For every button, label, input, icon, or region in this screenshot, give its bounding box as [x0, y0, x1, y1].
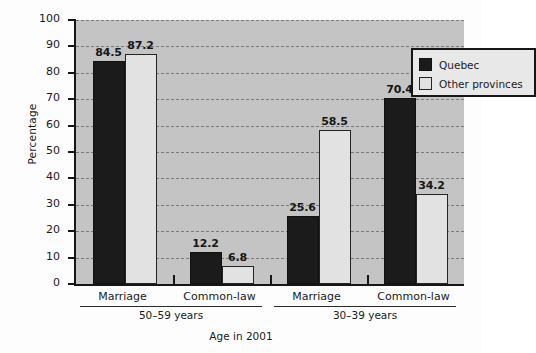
legend-swatch-quebec: [419, 58, 432, 71]
x-axis-category-label: Marriage: [74, 290, 171, 303]
bar-other-provinces: [319, 130, 351, 284]
y-axis-tick-label: 40: [0, 170, 60, 183]
y-axis-tick-label: 90: [0, 38, 60, 51]
x-axis-separator-tick: [367, 275, 369, 284]
y-axis-tick: [68, 230, 76, 232]
gridline: [76, 20, 464, 21]
bar-other-provinces: [416, 194, 448, 284]
bar-value-label: 58.5: [311, 115, 359, 128]
chart-legend: Quebec Other provinces: [411, 48, 536, 97]
bar-other-provinces: [125, 54, 157, 284]
y-axis-tick: [68, 72, 76, 74]
legend-label-quebec: Quebec: [439, 59, 479, 71]
x-axis-separator-tick: [270, 275, 272, 284]
x-axis-group-rule: [80, 306, 262, 307]
bar-quebec: [93, 61, 125, 284]
bar-quebec: [287, 216, 319, 284]
bar-other-provinces: [222, 266, 254, 284]
y-axis-tick-label: 80: [0, 65, 60, 78]
x-axis-group-label: 30–39 years: [274, 309, 456, 321]
y-axis-tick: [68, 204, 76, 206]
y-axis-tick-label: 20: [0, 223, 60, 236]
bar-value-label: 34.2: [408, 179, 456, 192]
y-axis-tick: [68, 19, 76, 21]
y-axis-tick: [68, 151, 76, 153]
y-axis-tick-label: 50: [0, 144, 60, 157]
y-axis-tick-label: 30: [0, 197, 60, 210]
y-axis-title: Percentage: [26, 54, 38, 214]
y-axis-tick-label: 70: [0, 91, 60, 104]
x-axis-group-label: 50–59 years: [80, 309, 262, 321]
y-axis-tick-label: 100: [0, 12, 60, 25]
plot-inner: 84.587.212.26.825.658.570.434.2: [76, 20, 464, 284]
legend-swatch-other-provinces: [419, 77, 432, 90]
legend-item-other-provinces: Other provinces: [419, 74, 528, 93]
y-axis-tick: [68, 177, 76, 179]
y-axis-tick: [68, 283, 76, 285]
legend-item-quebec: Quebec: [419, 55, 528, 74]
x-axis-category-label: Marriage: [268, 290, 365, 303]
y-axis-tick: [68, 125, 76, 127]
y-axis-tick: [68, 98, 76, 100]
plot-area: 84.587.212.26.825.658.570.434.2 Quebec O…: [74, 20, 464, 286]
legend-label-other-provinces: Other provinces: [439, 78, 523, 90]
x-axis-category-label: Common-law: [171, 290, 268, 303]
bar-value-label: 87.2: [117, 39, 165, 52]
x-axis-category-label: Common-law: [365, 290, 462, 303]
y-axis-tick-label: 60: [0, 118, 60, 131]
y-axis-tick-label: 10: [0, 250, 60, 263]
x-axis-group-rule: [274, 306, 456, 307]
y-axis-tick: [68, 45, 76, 47]
x-axis-separator-tick: [173, 275, 175, 284]
y-axis-tick: [68, 257, 76, 259]
bar-value-label: 12.2: [182, 237, 230, 250]
x-axis-title: Age in 2001: [0, 330, 482, 342]
bar-value-label: 6.8: [214, 251, 262, 264]
y-axis-tick-label: 0: [0, 276, 60, 289]
